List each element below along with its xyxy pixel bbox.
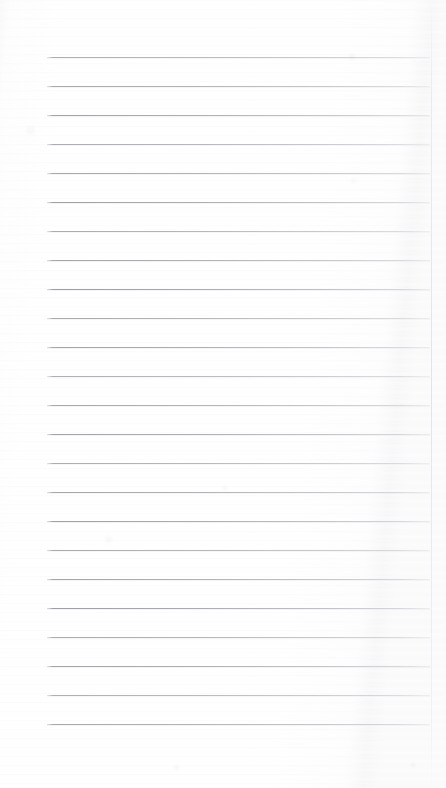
page-right-edge — [431, 0, 432, 788]
writing-area[interactable] — [47, 57, 430, 737]
notebook-page — [0, 0, 446, 788]
